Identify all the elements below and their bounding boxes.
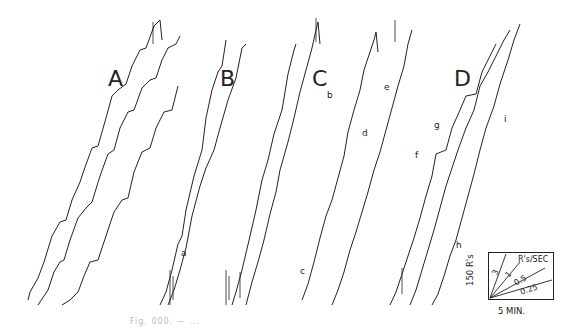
record-B1 bbox=[160, 40, 226, 305]
point-label-b: b bbox=[327, 90, 333, 100]
panel-label-c: C bbox=[312, 66, 327, 91]
point-label-c: c bbox=[300, 266, 305, 276]
figure-caption: Fig. 000. — ... bbox=[130, 317, 200, 326]
panel-label-d: D bbox=[454, 66, 471, 91]
scale-x-label: 5 MIN. bbox=[498, 306, 525, 316]
record-A3 bbox=[62, 86, 178, 305]
record-A1 bbox=[28, 20, 162, 300]
point-label-h: h bbox=[456, 240, 462, 250]
panel-label-b: B bbox=[220, 66, 235, 91]
point-label-i: i bbox=[504, 114, 507, 124]
point-label-g: g bbox=[434, 120, 440, 130]
record-D1 bbox=[390, 44, 496, 305]
point-label-a: a bbox=[181, 248, 187, 258]
cumulative-records-figure bbox=[0, 0, 562, 328]
record-C1 bbox=[246, 22, 320, 305]
record-C3 bbox=[332, 30, 412, 305]
panel-label-a: A bbox=[108, 66, 123, 91]
point-label-f: f bbox=[415, 150, 418, 160]
record-B3 bbox=[232, 44, 296, 305]
point-label-e: e bbox=[384, 82, 390, 92]
scale-y-label: 150 R's bbox=[465, 254, 475, 286]
point-label-d: d bbox=[362, 128, 368, 138]
rate-title: R's/SEC bbox=[518, 255, 548, 264]
